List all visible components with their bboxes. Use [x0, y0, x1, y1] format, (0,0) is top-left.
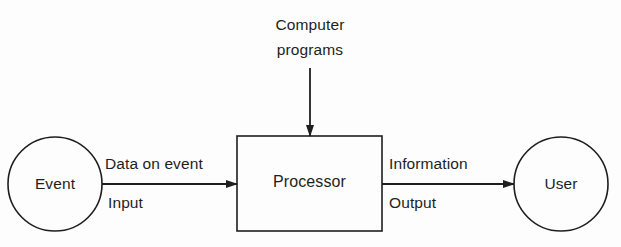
programs-label: Computer programs [250, 16, 370, 59]
information-label: Information [389, 155, 468, 173]
user-label: User [514, 175, 608, 193]
output-label: Output [389, 194, 436, 212]
programs-label-line1: Computer [250, 16, 370, 34]
processor-label: Processor [237, 173, 382, 191]
programs-label-line2: programs [250, 41, 370, 59]
event-label: Event [8, 175, 102, 193]
data-on-event-label: Data on event [105, 155, 203, 173]
input-label: Input [108, 194, 143, 212]
